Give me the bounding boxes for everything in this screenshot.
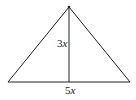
apex-point bbox=[68, 6, 71, 9]
base-label: 5x bbox=[65, 84, 76, 96]
triangle-diagram: 3x 5x bbox=[0, 0, 136, 100]
height-label: 3x bbox=[57, 37, 68, 49]
